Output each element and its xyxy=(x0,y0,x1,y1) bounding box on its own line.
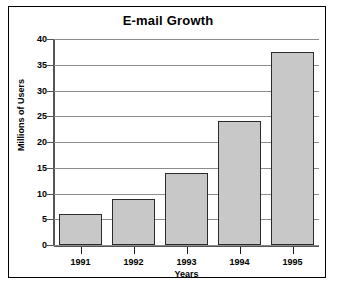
y-axis-tick-mark xyxy=(47,116,53,117)
bar-1993[interactable] xyxy=(165,173,207,245)
y-axis-tick-label: 35 xyxy=(37,60,47,70)
y-axis-tick-label: 15 xyxy=(37,163,47,173)
y-axis-tick-mark xyxy=(47,168,53,169)
x-axis-tick-mark xyxy=(81,247,82,254)
y-axis-tick-label: 20 xyxy=(37,137,47,147)
chart-frame: E-mail Growth Millions of Users 05101520… xyxy=(8,6,326,278)
chart-title: E-mail Growth xyxy=(9,13,327,28)
bar-1995[interactable] xyxy=(271,52,313,245)
bar-1992[interactable] xyxy=(112,199,154,245)
y-axis-tick-mark xyxy=(47,39,53,40)
y-axis-tick-mark xyxy=(47,194,53,195)
y-axis-tick-mark xyxy=(47,65,53,66)
y-axis-tick-label: 25 xyxy=(37,111,47,121)
x-axis-tick-label: 1994 xyxy=(229,257,249,267)
x-axis-tick-mark xyxy=(240,247,241,254)
x-axis-tick-label: 1992 xyxy=(123,257,143,267)
x-axis-tick-label: 1995 xyxy=(282,257,302,267)
gridline xyxy=(54,39,319,40)
x-axis-tick-mark xyxy=(187,247,188,254)
y-axis-tick-labels: 0510152025303540 xyxy=(25,7,47,279)
x-axis-tick-label: 1991 xyxy=(70,257,90,267)
bar-1994[interactable] xyxy=(218,121,260,245)
plot-area xyxy=(54,39,319,245)
y-axis-tick-label: 10 xyxy=(37,189,47,199)
gridline xyxy=(54,245,319,246)
y-axis-tick-mark xyxy=(47,91,53,92)
y-axis-tick-label: 30 xyxy=(37,86,47,96)
bar-1991[interactable] xyxy=(59,214,101,245)
x-axis-title: Years xyxy=(54,269,319,279)
x-axis-tick-mark xyxy=(134,247,135,254)
y-axis-tick-mark xyxy=(47,142,53,143)
y-axis-tick-mark xyxy=(47,219,53,220)
y-axis-tick-label: 40 xyxy=(37,34,47,44)
x-axis-tick-label: 1993 xyxy=(176,257,196,267)
x-axis-tick-mark xyxy=(293,247,294,254)
y-axis-tick-mark xyxy=(47,245,53,246)
